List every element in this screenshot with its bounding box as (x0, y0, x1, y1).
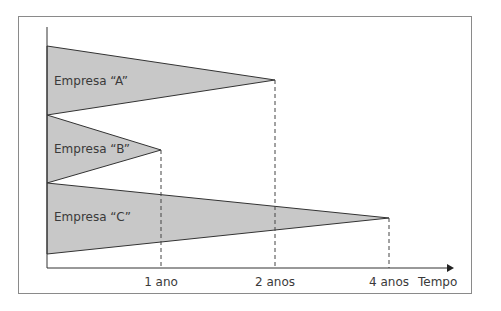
x-axis-label: Tempo (417, 275, 457, 289)
tick-4-anos: 4 anos (369, 275, 409, 289)
label-empresa-a: Empresa “A” (54, 74, 128, 88)
label-empresa-c: Empresa “C” (54, 210, 131, 224)
diagram: Empresa “A” Empresa “B” Empresa “C” 1 an… (0, 0, 501, 311)
label-empresa-b: Empresa “B” (54, 142, 130, 156)
tick-2-anos: 2 anos (255, 275, 295, 289)
tick-1-ano: 1 ano (144, 275, 178, 289)
